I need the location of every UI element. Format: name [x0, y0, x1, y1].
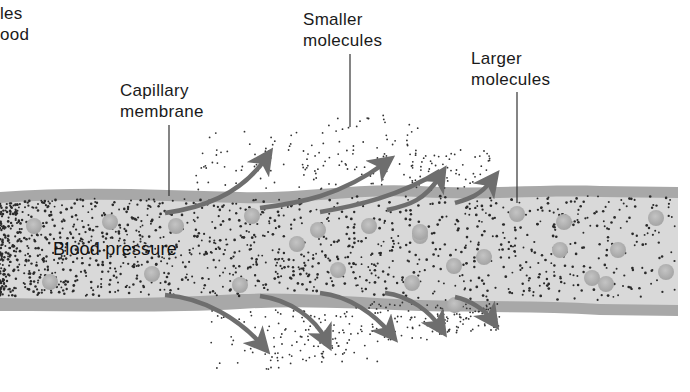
blood-pressure-label: Blood pressure	[53, 239, 177, 260]
large-molecule	[404, 275, 420, 291]
large-molecule	[289, 236, 305, 252]
smaller-molecules-line2: molecules	[303, 30, 382, 51]
large-molecule	[552, 242, 568, 258]
large-molecule	[244, 208, 260, 224]
large-molecule	[330, 262, 346, 278]
smaller-molecules-line1: Smaller	[303, 9, 382, 30]
large-molecule	[598, 276, 614, 292]
large-molecule	[658, 264, 674, 280]
large-molecule	[232, 277, 248, 293]
large-molecule	[361, 218, 377, 234]
capillary-membrane-line2: membrane	[120, 101, 204, 122]
cutoff-label-left: les ood	[0, 3, 29, 45]
large-molecule	[42, 274, 58, 290]
filtration-diagram: les ood Capillary membrane Smaller molec…	[0, 0, 690, 392]
larger-molecules-line2: molecules	[471, 69, 550, 90]
cutoff-label-line1: les	[0, 3, 29, 24]
large-molecule	[102, 214, 118, 230]
large-molecule	[168, 218, 184, 234]
capillary-membrane-line1: Capillary	[120, 80, 204, 101]
large-molecule	[556, 214, 572, 230]
large-molecule	[310, 222, 326, 238]
capillary-illustration	[0, 0, 690, 392]
large-molecule	[584, 270, 600, 286]
larger-molecules-line1: Larger	[471, 48, 550, 69]
large-molecule	[26, 218, 42, 234]
large-molecule	[446, 258, 462, 274]
large-molecule	[610, 242, 626, 258]
capillary-membrane-label: Capillary membrane	[120, 80, 204, 122]
cutoff-label-line2: ood	[0, 24, 29, 45]
large-molecule	[412, 224, 428, 240]
large-molecule	[509, 206, 525, 222]
larger-molecules-label: Larger molecules	[471, 48, 550, 90]
large-molecule	[648, 210, 664, 226]
smaller-molecules-label: Smaller molecules	[303, 9, 382, 51]
large-molecule	[144, 266, 160, 282]
large-molecule	[476, 249, 492, 265]
